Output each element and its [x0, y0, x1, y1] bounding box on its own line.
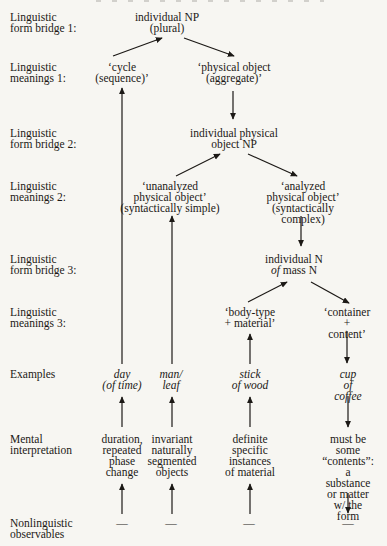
node-meaning-body-type: ‘body-type + material’	[225, 307, 276, 329]
node-meaning-container: ‘container + content’	[324, 307, 371, 340]
row-label-form-bridge-2: Linguistic form bridge 2:	[10, 128, 76, 150]
row-label-nonlinguistic-observables: Nonlinguistic observables	[10, 518, 73, 540]
arrow-individual-np-to-physical-object	[184, 38, 234, 56]
example-day: day (of time)	[102, 369, 141, 391]
node-form-bridge-3: individual Nof mass N	[265, 254, 323, 276]
node-meaning-physical-object: ‘physical object (aggregate)’	[197, 62, 270, 84]
row-label-examples: Examples	[10, 369, 55, 380]
row-label-form-bridge-1: Linguistic form bridge 1:	[10, 12, 76, 34]
observable-dash-3: —	[243, 518, 255, 529]
row-label-meanings-2: Linguistic meanings 2:	[10, 181, 66, 203]
example-man-leaf: man/ leaf	[160, 369, 183, 391]
example-stick-of-wood: stick of wood	[232, 369, 269, 391]
arrow-cycle-to-individual-np	[113, 38, 162, 56]
node-meaning-analyzed: ‘analyzed physical object’ (syntacticall…	[261, 181, 345, 225]
row-label-meanings-1: Linguistic meanings 1:	[10, 62, 66, 84]
mental-interpretation-invariant: invariant naturally segmented objects	[147, 434, 196, 478]
node-meaning-unanalyzed: ‘unanalyzed physical object’ (syntactica…	[120, 181, 219, 214]
node-form-bridge-3-rest: mass N	[280, 264, 317, 276]
observable-dash-1: —	[116, 518, 128, 529]
mental-interpretation-definite: definite specific instances of material	[225, 434, 275, 478]
node-meaning-cycle: ‘cycle (sequence)’	[95, 62, 149, 84]
arrow-form-bridge-2-to-analyzed	[248, 154, 297, 176]
example-cup-of-coffee: cup of coffee	[329, 369, 368, 402]
node-form-bridge-3-of: of	[271, 264, 280, 276]
node-form-bridge-1: individual NP (plural)	[135, 12, 199, 34]
arrow-form-bridge-3-to-container	[311, 282, 349, 303]
mental-interpretation-duration: duration, repeated phase change	[101, 434, 142, 478]
arrow-unanalyzed-to-form-bridge-2	[176, 154, 220, 176]
diagram-page: Linguistic form bridge 1: Linguistic mea…	[0, 0, 387, 546]
node-form-bridge-2: individual physical object NP	[190, 128, 278, 150]
mental-interpretation-contents: must be some “contents”: a substance or …	[322, 434, 374, 522]
arrow-body-type-to-form-bridge-3	[248, 282, 287, 302]
observable-dash-4: —	[342, 518, 354, 529]
row-label-mental-interpretation: Mental interpretation	[10, 434, 72, 456]
row-label-meanings-3: Linguistic meanings 3:	[10, 307, 66, 329]
row-label-form-bridge-3: Linguistic form bridge 3:	[10, 254, 76, 276]
observable-dash-2: —	[165, 518, 177, 529]
